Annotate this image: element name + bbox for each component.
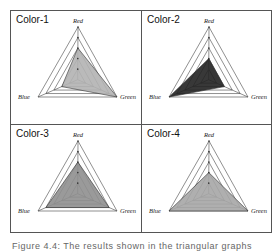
svg-text:Green: Green [120, 207, 136, 214]
svg-text:Blue: Blue [149, 93, 161, 100]
radar-chart: RedGreenBlue [10, 124, 141, 233]
svg-text:Blue: Blue [149, 207, 161, 214]
radar-panel-4: Color-4 RedGreenBlue [141, 124, 272, 238]
data-polygon [62, 48, 117, 97]
data-polygon [169, 173, 248, 211]
radar-chart: RedGreenBlue [141, 124, 272, 233]
figure-caption: Figure 4.4: The results shown in the tri… [12, 241, 252, 251]
svg-text:Red: Red [203, 17, 215, 24]
svg-text:Green: Green [120, 93, 136, 100]
svg-text:Red: Red [203, 131, 215, 138]
data-polygon [169, 59, 224, 97]
svg-text:Red: Red [72, 17, 84, 24]
svg-text:Blue: Blue [18, 93, 30, 100]
radar-panel-1: Color-1 RedGreenBlue [10, 10, 141, 124]
svg-text:Red: Red [72, 131, 84, 138]
svg-text:Blue: Blue [18, 207, 30, 214]
svg-text:Green: Green [251, 93, 267, 100]
radar-chart: RedGreenBlue [10, 10, 141, 124]
data-polygon [46, 162, 109, 207]
radar-panel-3: Color-3 RedGreenBlue [10, 124, 141, 238]
radar-panel-2: Color-2 RedGreenBlue [141, 10, 272, 124]
radar-chart: RedGreenBlue [141, 10, 272, 124]
svg-text:Green: Green [251, 207, 267, 214]
